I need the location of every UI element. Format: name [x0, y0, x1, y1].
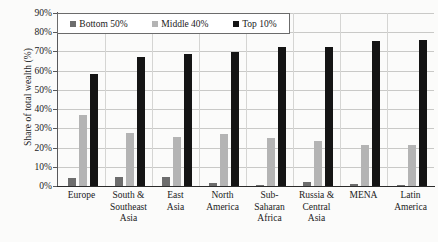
- x-axis-label: LatinAmerica: [381, 190, 438, 213]
- bar: [209, 183, 217, 186]
- legend-item-middle-40: Middle 40%: [152, 19, 208, 29]
- bar-group: [293, 13, 340, 186]
- bar-group: [199, 13, 246, 186]
- x-axis-label-line: Latin: [381, 190, 438, 202]
- bar: [68, 178, 76, 186]
- y-axis-tick-label: 10%: [18, 162, 52, 172]
- bar-group: [105, 13, 152, 186]
- y-axis-tick-label: 0%: [18, 181, 52, 191]
- bar: [267, 138, 275, 186]
- bar: [90, 74, 98, 186]
- bar: [350, 184, 358, 186]
- bar: [325, 47, 333, 186]
- bar: [408, 145, 416, 186]
- bar: [137, 57, 145, 186]
- bar: [278, 47, 286, 186]
- plot-area: [58, 13, 434, 186]
- bar: [79, 115, 87, 187]
- x-axis-label-line: Asia: [287, 213, 346, 225]
- bar: [220, 134, 228, 186]
- legend-swatch-top-10: [233, 21, 239, 27]
- x-axis-label-line: America: [381, 202, 438, 214]
- x-axis-labels: EuropeSouth &SoutheastAsiaEastAsiaNorthA…: [58, 190, 434, 242]
- chart-legend: Bottom 50% Middle 40% Top 10%: [57, 13, 290, 34]
- bar: [314, 141, 322, 186]
- bar: [372, 41, 380, 187]
- bar: [184, 54, 192, 186]
- legend-item-bottom-50: Bottom 50%: [70, 19, 127, 29]
- bar-group: [387, 13, 434, 186]
- y-axis-tick-label: 40%: [18, 104, 52, 114]
- bar: [256, 185, 264, 186]
- legend-label-middle-40: Middle 40%: [161, 19, 208, 29]
- y-axis-tick-label: 30%: [18, 123, 52, 133]
- legend-swatch-middle-40: [152, 21, 158, 27]
- y-axis-tick-label: 60%: [18, 66, 52, 76]
- y-axis-tick-label: 20%: [18, 143, 52, 153]
- bar-group: [152, 13, 199, 186]
- x-axis-label-line: Central: [287, 202, 346, 214]
- y-axis-title: Share of total wealth (%): [23, 12, 33, 182]
- bar: [397, 185, 405, 186]
- bar-group: [58, 13, 105, 186]
- bar: [361, 145, 369, 186]
- bar: [231, 52, 239, 186]
- y-axis-tick-label: 80%: [18, 27, 52, 37]
- bar: [303, 182, 311, 186]
- legend-label-top-10: Top 10%: [242, 19, 276, 29]
- bar-group: [246, 13, 293, 186]
- bar: [173, 137, 181, 186]
- legend-item-top-10: Top 10%: [233, 19, 276, 29]
- y-axis-tick-label: 50%: [18, 85, 52, 95]
- x-axis-line: [57, 186, 435, 187]
- x-axis-label-line: Asia: [99, 213, 158, 225]
- bar: [115, 177, 123, 186]
- y-axis-tick-label: 90%: [18, 8, 52, 18]
- bar: [419, 40, 427, 186]
- wealth-share-bar-chart: Share of total wealth (%) 90%80%70%60%50…: [0, 0, 438, 242]
- bar: [126, 133, 134, 186]
- bar-group: [340, 13, 387, 186]
- legend-swatch-bottom-50: [70, 21, 76, 27]
- bar: [162, 177, 170, 186]
- y-axis-tick-label: 70%: [18, 46, 52, 56]
- legend-label-bottom-50: Bottom 50%: [79, 19, 127, 29]
